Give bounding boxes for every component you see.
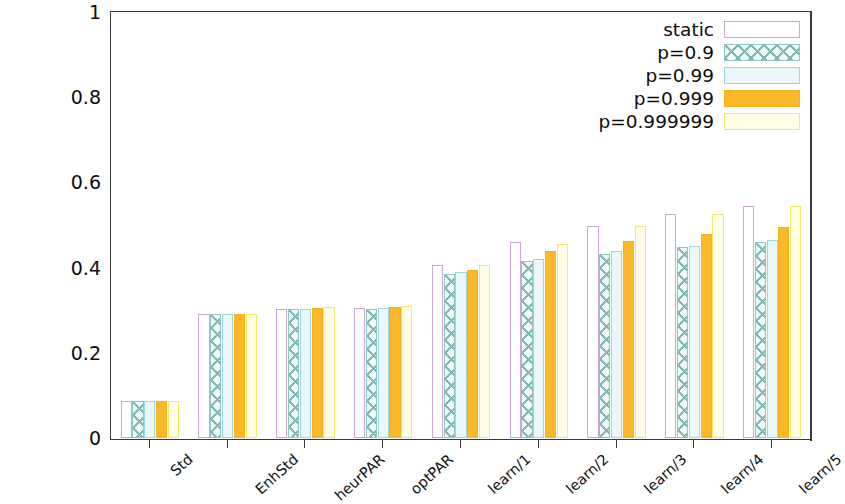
bar-group <box>510 12 568 438</box>
bar-group <box>121 12 179 438</box>
bar-group <box>198 12 256 438</box>
bar <box>276 309 287 438</box>
bar <box>677 247 688 438</box>
y-tick-label: 0.6 <box>5 171 101 193</box>
x-tick-label: learn/4 <box>718 451 766 497</box>
legend-label: p=0.999 <box>634 88 714 109</box>
bar <box>587 226 598 438</box>
x-tick-mark <box>616 440 617 448</box>
x-tick-label: learn/1 <box>485 451 533 497</box>
bar <box>623 241 634 438</box>
legend-swatch <box>724 21 800 38</box>
x-tick-label: learn/5 <box>796 451 844 497</box>
x-tick-mark <box>538 440 539 448</box>
legend-label: p=0.999999 <box>598 111 714 132</box>
x-tick-mark <box>227 440 228 448</box>
x-tick-mark <box>693 440 694 448</box>
bar <box>611 251 622 438</box>
x-tick-label: heurPAR <box>332 451 388 504</box>
bar <box>557 244 568 438</box>
bar <box>198 314 209 438</box>
bar <box>300 309 311 438</box>
legend-swatch <box>724 90 800 107</box>
bar <box>701 234 712 438</box>
y-tick-label: 0.2 <box>5 342 101 364</box>
bar <box>323 307 334 438</box>
x-tick-label: Std <box>167 451 196 479</box>
legend-swatch <box>724 113 800 130</box>
bar-group <box>354 12 412 438</box>
bar <box>210 314 221 438</box>
x-tick-label: learn/3 <box>641 451 689 497</box>
y-tick-label: 0 <box>5 427 101 449</box>
bar <box>479 265 490 438</box>
bar <box>467 270 478 438</box>
bar <box>767 240 778 438</box>
bar <box>790 206 801 438</box>
bar <box>222 314 233 438</box>
bar-group <box>432 12 490 438</box>
legend-item[interactable]: static <box>564 18 800 40</box>
bar <box>132 401 143 438</box>
bar <box>521 261 532 438</box>
x-tick-label: learn/2 <box>563 451 611 497</box>
bar <box>635 226 646 438</box>
bar <box>401 306 412 438</box>
bar <box>246 314 257 438</box>
bar <box>455 272 466 438</box>
bar-group <box>276 12 334 438</box>
bar <box>288 309 299 438</box>
bar <box>144 401 155 438</box>
bar <box>234 314 245 438</box>
bar <box>599 254 610 438</box>
legend-label: static <box>663 19 714 40</box>
bar <box>444 274 455 438</box>
bar <box>533 259 544 438</box>
legend-item[interactable]: p=0.99 <box>564 64 800 86</box>
legend-item[interactable]: p=0.999999 <box>564 110 800 132</box>
bar <box>689 246 700 438</box>
x-tick-mark <box>382 440 383 448</box>
x-tick-mark <box>304 440 305 448</box>
bar <box>378 308 389 438</box>
x-tick-mark <box>149 440 150 448</box>
legend-item[interactable]: p=0.9 <box>564 41 800 63</box>
x-tick-mark <box>460 440 461 448</box>
bar <box>778 227 789 438</box>
x-tick-mark <box>771 440 772 448</box>
bar <box>755 242 766 438</box>
x-tick-label: optPAR <box>407 451 456 497</box>
bar <box>510 242 521 438</box>
legend-item[interactable]: p=0.999 <box>564 87 800 109</box>
x-tick-label: EnhStd <box>252 451 301 497</box>
legend-label: p=0.9 <box>657 42 714 63</box>
bar <box>156 401 167 438</box>
bar <box>712 214 723 438</box>
bar <box>121 401 132 438</box>
bar <box>389 307 400 438</box>
y-tick-label: 0.4 <box>5 257 101 279</box>
bar <box>168 401 179 438</box>
legend: staticp=0.9p=0.99p=0.999p=0.999999 <box>564 18 800 133</box>
bar <box>665 214 676 438</box>
bar <box>312 308 323 438</box>
bar <box>366 309 377 438</box>
bar <box>545 251 556 438</box>
bar <box>354 308 365 438</box>
legend-swatch <box>724 67 800 84</box>
legend-label: p=0.99 <box>646 65 714 86</box>
bar <box>432 265 443 438</box>
y-tick-label: 0.8 <box>5 86 101 108</box>
legend-swatch <box>724 44 800 61</box>
bar <box>743 206 754 438</box>
y-tick-label: 1 <box>5 1 101 23</box>
